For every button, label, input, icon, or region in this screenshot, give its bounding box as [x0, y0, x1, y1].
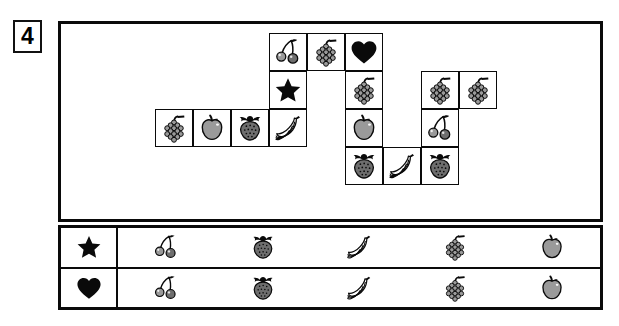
apple-icon [538, 233, 566, 261]
star-icon [75, 233, 103, 261]
apple-icon [197, 113, 227, 143]
answer-key-item-bananas-r1i2[interactable] [311, 274, 407, 302]
answer-key-row-star [61, 228, 600, 269]
cherries-icon [152, 233, 180, 261]
strawberry-icon [249, 274, 277, 302]
puzzle-cell-strawberry-r3c5[interactable] [345, 147, 383, 185]
bananas-icon [345, 233, 373, 261]
strawberry-icon [249, 233, 277, 261]
puzzle-cell-cherries-r2c7[interactable] [421, 109, 459, 147]
heart-icon [75, 274, 103, 302]
cherries-icon [273, 37, 303, 67]
answer-key-item-cherries-r1i0[interactable] [118, 274, 214, 302]
puzzle-cell-cherries-r0c3[interactable] [269, 33, 307, 71]
star-icon [273, 75, 303, 105]
answer-key-item-strawberry-r0i1[interactable] [214, 233, 310, 261]
bananas-icon [387, 151, 417, 181]
cherries-icon [425, 113, 455, 143]
bananas-icon [345, 274, 373, 302]
puzzle-cell-star-r1c3[interactable] [269, 71, 307, 109]
grapes-icon [349, 75, 379, 105]
grapes-icon [463, 75, 493, 105]
grapes-icon [159, 113, 189, 143]
answer-key-item-strawberry-r1i1[interactable] [214, 274, 310, 302]
answer-key-item-apple-r0i4[interactable] [504, 233, 600, 261]
answer-key-table [58, 225, 603, 310]
puzzle-cell-grapes-r2c0[interactable] [155, 109, 193, 147]
bananas-icon [273, 113, 303, 143]
grapes-icon [441, 274, 469, 302]
cherries-icon [152, 274, 180, 302]
strawberry-icon [349, 151, 379, 181]
puzzle-cell-bananas-r3c6[interactable] [383, 147, 421, 185]
answer-key-item-bananas-r0i2[interactable] [311, 233, 407, 261]
answer-key-row-heart [61, 269, 600, 308]
puzzle-cell-bananas-r2c3[interactable] [269, 109, 307, 147]
answer-key-items [118, 228, 600, 267]
apple-icon [538, 274, 566, 302]
puzzle-cell-heart-r0c5[interactable] [345, 33, 383, 71]
answer-key-item-grapes-r1i3[interactable] [407, 274, 503, 302]
puzzle-cell-strawberry-r2c2[interactable] [231, 109, 269, 147]
puzzle-cell-grapes-r1c5[interactable] [345, 71, 383, 109]
strawberry-icon [235, 113, 265, 143]
answer-key-item-apple-r1i4[interactable] [504, 274, 600, 302]
answer-key-item-grapes-r0i3[interactable] [407, 233, 503, 261]
puzzle-cell-apple-r2c5[interactable] [345, 109, 383, 147]
exercise-number-box: 4 [13, 20, 42, 53]
puzzle-cell-apple-r2c1[interactable] [193, 109, 231, 147]
answer-key-symbol-cell [61, 269, 118, 308]
answer-key-symbol-cell [61, 228, 118, 267]
grapes-icon [425, 75, 455, 105]
grapes-icon [441, 233, 469, 261]
puzzle-cell-grapes-r1c7[interactable] [421, 71, 459, 109]
strawberry-icon [425, 151, 455, 181]
heart-icon [349, 37, 379, 67]
answer-key-item-cherries-r0i0[interactable] [118, 233, 214, 261]
puzzle-cell-strawberry-r3c7[interactable] [421, 147, 459, 185]
grapes-icon [311, 37, 341, 67]
puzzle-cell-grapes-r0c4[interactable] [307, 33, 345, 71]
puzzle-grid-frame [58, 21, 603, 222]
exercise-number: 4 [21, 25, 34, 48]
apple-icon [349, 113, 379, 143]
puzzle-cell-grapes-r1c8[interactable] [459, 71, 497, 109]
answer-key-items [118, 269, 600, 308]
